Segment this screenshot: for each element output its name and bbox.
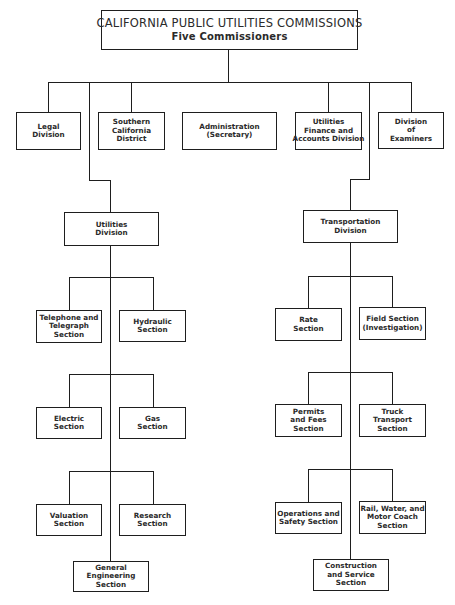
connector-transport-jog xyxy=(350,179,370,180)
truck-transport-section-box: Truck Transport Section xyxy=(359,404,426,437)
connector-util-row2-bar xyxy=(69,374,154,375)
utilities-division-box: Utilities Division xyxy=(64,212,159,246)
connector-trans-row2-bar xyxy=(308,372,393,373)
connector-trans-row1-left xyxy=(308,276,309,309)
connector-util-row3-left xyxy=(69,471,70,505)
rate-section-box: Rate Section xyxy=(275,308,342,341)
general-engineering-section-box: General Engineering Section xyxy=(73,561,149,592)
connector-util-row3-bar xyxy=(69,471,154,472)
connector-util-row2-right xyxy=(153,374,154,408)
commission-subtitle: Five Commissioners xyxy=(171,30,287,43)
connector-trans-row2-left xyxy=(308,372,309,405)
connector-trans-row3-bar xyxy=(308,469,393,470)
administration-box: Administration (Secretary) xyxy=(182,112,277,150)
legal-division-box: Legal Division xyxy=(16,112,81,150)
connector-trans-row1-right xyxy=(392,276,393,308)
connector-legal xyxy=(48,82,49,112)
connector-util-row2-left xyxy=(69,374,70,408)
operations-safety-section-box: Operations and Safety Section xyxy=(275,502,342,534)
research-section-box: Research Section xyxy=(119,504,186,536)
connector-util-row1-right xyxy=(153,277,154,310)
valuation-section-box: Valuation Section xyxy=(36,504,102,536)
commission-title: CALIFORNIA PUBLIC UTILITIES COMMISSIONS xyxy=(97,17,363,30)
transportation-division-box: Transportation Division xyxy=(303,210,398,243)
rail-water-motor-coach-section-box: Rail, Water, and Motor Coach Section xyxy=(359,501,426,534)
utilities-finance-accounts-box: Utilities Finance and Accounts Division xyxy=(295,112,362,150)
connector-trans-row3-right xyxy=(392,469,393,502)
connector-division-bar xyxy=(48,82,412,83)
southern-california-district-box: Southern California District xyxy=(98,112,165,150)
telephone-telegraph-section-box: Telephone and Telegraph Section xyxy=(36,310,102,343)
electric-section-box: Electric Section xyxy=(36,407,102,439)
connector-util-row1-left xyxy=(69,277,70,310)
connector-utilities-spine-upper xyxy=(89,82,90,181)
connector-trans-row2-right xyxy=(392,372,393,405)
connector-top-spine xyxy=(228,49,229,83)
org-chart: CALIFORNIA PUBLIC UTILITIES COMMISSIONS … xyxy=(0,0,455,605)
division-of-examiners-box: Division of Examiners xyxy=(378,112,444,149)
connector-utilities-jog xyxy=(89,180,111,181)
hydraulic-section-box: Hydraulic Section xyxy=(119,310,186,342)
connector-util-row3-right xyxy=(153,471,154,505)
commission-box: CALIFORNIA PUBLIC UTILITIES COMMISSIONS … xyxy=(101,10,358,50)
connector-socal xyxy=(131,82,132,112)
gas-section-box: Gas Section xyxy=(119,407,186,439)
connector-examiners xyxy=(411,82,412,112)
connector-transport-spine-upper xyxy=(369,82,370,180)
connector-utilfin xyxy=(328,82,329,112)
connector-trans-row1-bar xyxy=(308,276,393,277)
construction-service-section-box: Construction and Service Section xyxy=(313,559,389,591)
field-section-box: Field Section (Investigation) xyxy=(359,307,426,340)
connector-trans-row3-left xyxy=(308,469,309,503)
permits-fees-section-box: Permits and Fees Section xyxy=(275,404,342,437)
connector-util-row1-bar xyxy=(69,277,154,278)
